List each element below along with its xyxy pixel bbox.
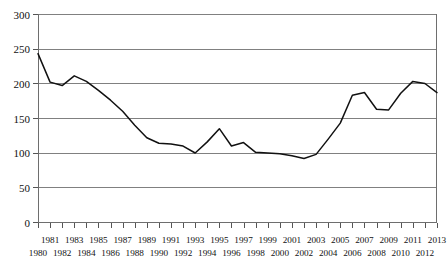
y-tick-label: 300 (14, 9, 31, 21)
x-tick-label: 1984 (77, 248, 96, 258)
x-tick-label: 1991 (162, 235, 181, 245)
x-tick-label: 2000 (271, 248, 290, 258)
x-tick-label: 2005 (331, 235, 350, 245)
x-tick-label: 2009 (379, 235, 398, 245)
x-tick-label: 2002 (295, 248, 314, 258)
y-tick-label: 200 (14, 78, 31, 90)
x-tick-label: 2001 (283, 235, 302, 245)
chart-canvas: 300 250 200 150 100 50 0 198119831985198… (0, 0, 447, 267)
x-tick-label: 2012 (416, 248, 435, 258)
x-tick-label: 1995 (210, 235, 229, 245)
gridlines (38, 15, 437, 188)
x-tick-label: 2010 (392, 248, 411, 258)
x-tick-label: 1987 (113, 235, 132, 245)
y-tick-label: 50 (19, 182, 31, 194)
x-tick-label: 1981 (41, 235, 60, 245)
x-tick-label: 2003 (307, 235, 326, 245)
data-series-line (38, 54, 437, 159)
x-tick-marks (39, 223, 438, 228)
x-tick-label: 1986 (101, 248, 120, 258)
x-axis-labels-top-row: 1981198319851987198919911993199519971999… (41, 235, 447, 245)
x-tick-label: 1990 (150, 248, 169, 258)
x-tick-label: 2013 (428, 235, 447, 245)
x-tick-label: 1996 (222, 248, 241, 258)
x-tick-label: 1993 (186, 235, 205, 245)
x-tick-label: 1989 (138, 235, 157, 245)
x-tick-label: 2007 (355, 235, 374, 245)
y-tick-label: 100 (14, 147, 31, 159)
y-tick-marks (33, 15, 38, 223)
x-tick-label: 2011 (404, 235, 422, 245)
y-tick-label: 250 (14, 43, 31, 55)
x-tick-label: 1999 (259, 235, 278, 245)
x-tick-label: 2004 (319, 248, 338, 258)
x-tick-label: 1988 (126, 248, 145, 258)
x-axis-labels-bottom-row: 1980198219841986198819901992199419961998… (29, 248, 435, 258)
line-chart: 300 250 200 150 100 50 0 198119831985198… (0, 0, 447, 267)
x-tick-label: 1985 (89, 235, 108, 245)
y-axis-tick-labels: 300 250 200 150 100 50 0 (14, 9, 31, 229)
x-tick-label: 1980 (29, 248, 48, 258)
x-tick-label: 1992 (174, 248, 193, 258)
x-tick-label: 1997 (234, 235, 253, 245)
x-tick-label: 2006 (343, 248, 362, 258)
x-tick-label: 1994 (198, 248, 217, 258)
y-tick-label: 0 (25, 217, 31, 229)
y-tick-label: 150 (14, 113, 31, 125)
x-tick-label: 1983 (65, 235, 84, 245)
x-tick-label: 2008 (367, 248, 386, 258)
x-tick-label: 1998 (246, 248, 265, 258)
x-tick-label: 1982 (53, 248, 72, 258)
